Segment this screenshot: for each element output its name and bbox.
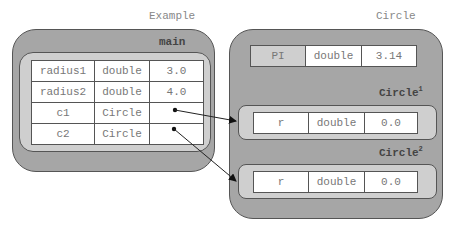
arrow-c2-to-circle2	[174, 129, 236, 181]
reference-arrows	[0, 0, 454, 232]
arrow-c1-to-circle1	[175, 110, 236, 121]
